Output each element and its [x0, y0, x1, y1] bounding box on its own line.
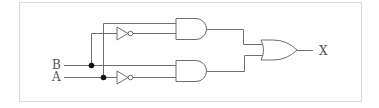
wire-b-to-not1	[92, 34, 118, 66]
wire-a-to-and1	[104, 24, 177, 78]
junction-a	[101, 75, 107, 81]
not-gate-2	[117, 71, 128, 84]
and-gate-1	[176, 19, 206, 40]
not-gate-1-bubble	[128, 31, 133, 36]
or-gate	[261, 40, 297, 60]
junction-b	[89, 63, 95, 69]
not-gate-1	[117, 27, 128, 40]
and-gate-2	[176, 61, 207, 82]
wire-and1-to-or	[207, 30, 265, 45]
logic-circuit-diagram: B A X	[0, 0, 379, 108]
not-gate-2-bubble	[128, 75, 133, 80]
diagram-frame	[20, 3, 362, 102]
output-label-x: X	[319, 44, 328, 58]
input-label-a: A	[51, 70, 61, 84]
wire-and2-to-or	[207, 56, 265, 72]
